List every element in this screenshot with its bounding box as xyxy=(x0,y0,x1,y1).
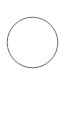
image-canvas xyxy=(0,0,66,114)
vector-shape-layer xyxy=(0,0,66,114)
circle-outline xyxy=(7,17,58,68)
